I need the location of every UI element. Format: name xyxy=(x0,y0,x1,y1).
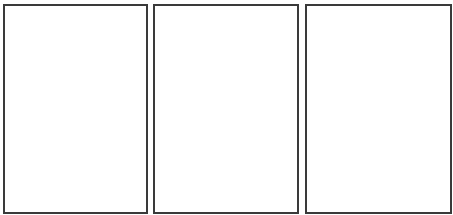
blank-panel-3 xyxy=(305,4,452,214)
blank-panel-2 xyxy=(153,4,299,214)
blank-panel-1 xyxy=(3,4,148,214)
